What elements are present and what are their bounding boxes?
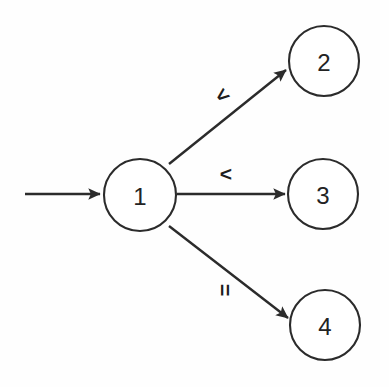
node-2-label: 2 xyxy=(317,49,330,76)
edge-node-1-to-node-3: < xyxy=(177,162,285,195)
node-1-label: 1 xyxy=(133,183,146,210)
edge-label-1-to-3: < xyxy=(220,162,232,185)
node-4-label: 4 xyxy=(318,313,331,340)
edge-node-1-to-node-4: = xyxy=(169,226,288,318)
edge-label-1-to-4: = xyxy=(213,284,236,296)
edge-line-1-to-2 xyxy=(169,70,286,164)
node-4[interactable]: 4 xyxy=(290,290,360,360)
node-3[interactable]: 3 xyxy=(288,159,358,229)
node-2[interactable]: 2 xyxy=(289,26,359,96)
node-1[interactable]: 1 xyxy=(104,159,176,231)
edge-line-1-to-4 xyxy=(169,226,288,318)
node-3-label: 3 xyxy=(316,182,329,209)
edge-label-1-to-2: < xyxy=(210,82,234,108)
diagram-canvas: < < = 1 2 3 4 xyxy=(0,0,389,387)
edge-node-1-to-node-2: < xyxy=(169,70,286,164)
state-diagram: < < = 1 2 3 4 xyxy=(0,0,389,387)
